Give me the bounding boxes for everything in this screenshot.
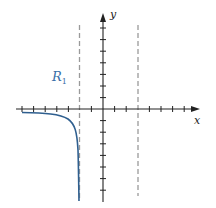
function-curve bbox=[22, 113, 79, 202]
y-axis: y bbox=[100, 8, 117, 202]
region-label-subscript: 1 bbox=[62, 77, 67, 86]
region-label: R1 bbox=[51, 69, 67, 86]
coordinate-plane: x y R1 bbox=[0, 0, 216, 208]
x-axis-label: x bbox=[194, 114, 201, 127]
x-axis-arrow-icon bbox=[191, 106, 200, 112]
y-axis-arrow-icon bbox=[100, 13, 106, 22]
y-axis-label: y bbox=[109, 8, 117, 21]
x-axis: x bbox=[16, 106, 201, 127]
